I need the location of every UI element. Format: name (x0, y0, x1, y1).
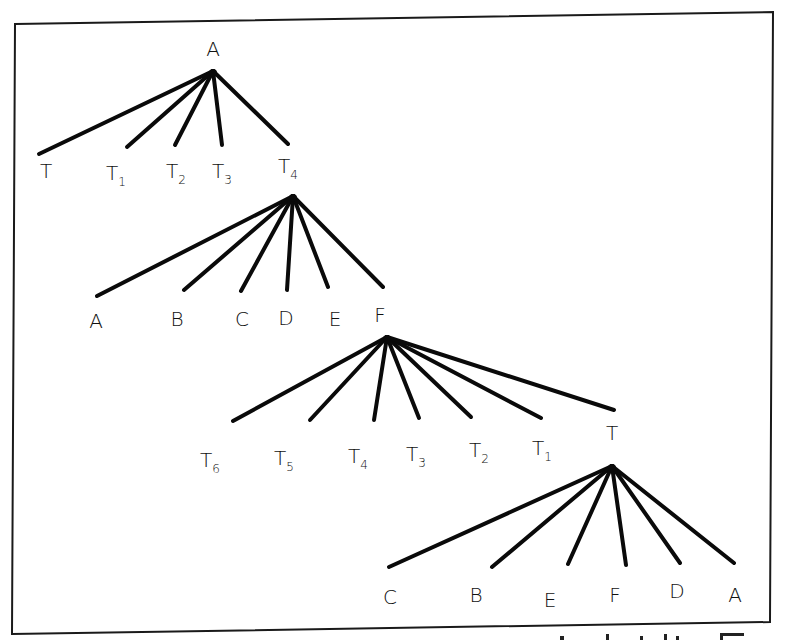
node-label: T5 (274, 446, 294, 474)
node-label: E (329, 307, 342, 331)
node-label: T6 (200, 448, 220, 476)
tree-edge (568, 466, 612, 564)
node-label: A (89, 309, 103, 333)
tree-edge (213, 71, 222, 145)
tree-edge (293, 196, 328, 287)
root-label: A (206, 37, 220, 61)
node-label: T2 (166, 159, 186, 187)
tree-2: ABCDEF (89, 194, 386, 333)
root-node (383, 335, 391, 343)
tree-edge (213, 71, 288, 144)
tree-edge (287, 196, 293, 290)
node-label: T3 (212, 159, 232, 187)
node-label: T1 (106, 161, 126, 189)
tree-1: ATT1T2T3T4 (39, 37, 298, 189)
node-label: C (235, 307, 249, 331)
tree-edge (293, 196, 383, 287)
tree-3: T6T5T4T3T2T1T (200, 335, 618, 476)
tree-edge (389, 466, 612, 567)
node-label: C (383, 585, 397, 609)
trees-group: ATT1T2T3T4ABCDEFT6T5T4T3T2T1TCBEFDA (39, 37, 742, 612)
node-label: D (669, 579, 684, 603)
node-label: F (609, 583, 621, 607)
tree-edge (127, 71, 213, 147)
tree-edge (387, 337, 614, 410)
node-label: T (40, 159, 52, 183)
root-node (608, 464, 616, 472)
node-label: B (170, 307, 183, 331)
cropped-caption (560, 633, 744, 640)
node-label: D (278, 306, 293, 330)
tree-4: CBEFDA (383, 464, 742, 612)
node-label: T4 (278, 154, 298, 182)
tree-diagram: ATT1T2T3T4ABCDEFT6T5T4T3T2T1TCBEFDA (0, 0, 790, 640)
node-label: E (544, 588, 557, 612)
figure-frame (12, 12, 773, 634)
node-label: T2 (469, 438, 489, 466)
tree-edge (233, 337, 387, 421)
root-node (289, 194, 297, 202)
node-label: T1 (532, 436, 552, 464)
node-label: A (728, 583, 742, 607)
node-label: B (469, 583, 482, 607)
node-label: T4 (348, 444, 368, 472)
root-node (209, 69, 217, 77)
node-label: T3 (406, 442, 426, 470)
tree-edge (492, 466, 612, 567)
node-label: T (606, 421, 618, 445)
node-label: F (374, 303, 386, 327)
tree-edge (39, 71, 213, 154)
tree-edge (612, 466, 734, 563)
